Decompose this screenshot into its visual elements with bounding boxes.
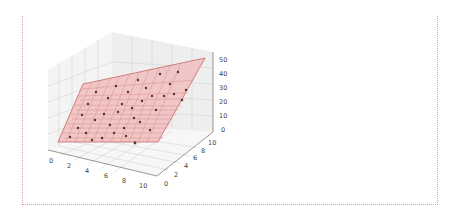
y-tick-10: 10: [208, 139, 216, 147]
x-tick-10: 10: [139, 182, 147, 190]
x-tick-2: 2: [67, 162, 71, 170]
x-tick-8: 8: [122, 177, 126, 185]
y-tick-2: 2: [174, 171, 178, 179]
y-tick-6: 6: [193, 154, 197, 162]
z-tick-30: 30: [219, 84, 227, 92]
y-tick-4: 4: [184, 162, 188, 170]
x-tick-4: 4: [85, 167, 89, 175]
z-tick-0: 0: [221, 126, 225, 134]
z-tick-20: 20: [219, 98, 227, 106]
z-tick-40: 40: [219, 70, 227, 78]
plot-3d: [0, 0, 454, 217]
z-tick-10: 10: [219, 112, 227, 120]
x-tick-0: 0: [49, 157, 53, 165]
y-tick-8: 8: [201, 147, 205, 155]
y-tick-0: 0: [164, 180, 168, 188]
z-tick-50: 50: [219, 56, 227, 64]
x-tick-6: 6: [104, 172, 108, 180]
